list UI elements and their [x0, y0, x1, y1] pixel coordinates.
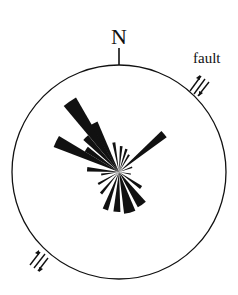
fault-label: fault — [193, 50, 221, 66]
rose-diagram: N fault — [0, 0, 238, 295]
fault-shear-icon-sw — [30, 250, 48, 272]
rose-petal — [119, 167, 132, 173]
rose-petals — [54, 98, 167, 214]
rose-petal — [100, 172, 119, 194]
rose-petal — [119, 146, 123, 172]
fault-shear-icon-ne — [190, 75, 209, 96]
north-label: N — [111, 24, 127, 49]
